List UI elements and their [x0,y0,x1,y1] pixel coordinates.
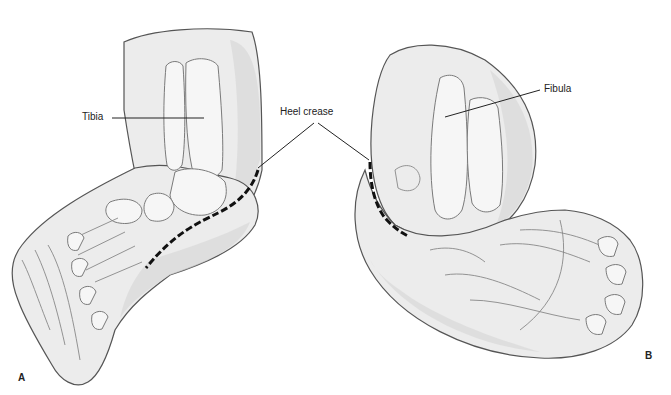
panel-a-foot-drawing [12,29,262,385]
heel-crease-leader-b [318,123,369,160]
heel-crease-label: Heel crease [280,106,333,117]
heel-crease-leader-a [258,123,314,168]
panel-letter-a: A [18,372,25,383]
fibula-label: Fibula [544,83,571,94]
tibia-label: Tibia [82,111,103,122]
panel-letter-b: B [645,350,652,361]
clubfoot-illustration [0,0,671,395]
panel-b-foot-drawing [355,45,643,358]
